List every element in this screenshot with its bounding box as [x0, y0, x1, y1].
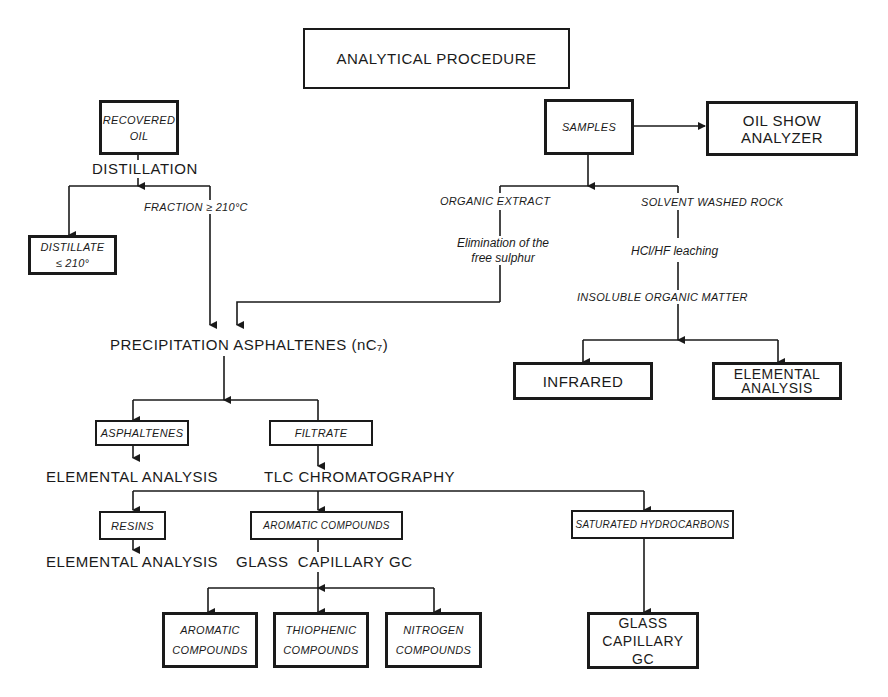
aromatic-compounds-label: AROMATIC COMPOUNDS [263, 520, 389, 531]
elemental-analysis-2-label: ELEMENTAL ANALYSIS [46, 553, 218, 570]
aromatic-compounds-final-label: AROMATIC COMPOUNDS [172, 620, 247, 660]
samples-box: SAMPLES [544, 99, 634, 155]
saturated-hydrocarbons-label: SATURATED HYDROCARBONS [575, 519, 729, 530]
infrared-label: INFRARED [543, 373, 624, 390]
oil-show-analyzer-box: OIL SHOW ANALYZER [706, 101, 858, 156]
filtrate-label: FILTRATE [295, 427, 348, 439]
distillate-box: DISTILLATE ≤ 210° [28, 235, 117, 275]
distillate-label: DISTILLATE ≤ 210° [41, 239, 105, 271]
nitrogen-compounds-box: NITROGEN COMPOUNDS [385, 612, 482, 668]
filtrate-box: FILTRATE [269, 420, 373, 446]
asphaltenes-label: ASPHALTENES [101, 427, 184, 439]
infrared-box: INFRARED [513, 362, 653, 400]
saturated-hydrocarbons-box: SATURATED HYDROCARBONS [571, 510, 734, 539]
distillation-label: DISTILLATION [92, 160, 198, 177]
recovered-oil-box: RECOVERED OIL [99, 100, 179, 155]
thiophenic-compounds-label: THIOPHENIC COMPOUNDS [283, 620, 358, 660]
nitrogen-compounds-label: NITROGEN COMPOUNDS [396, 620, 471, 660]
samples-label: SAMPLES [562, 121, 616, 133]
fraction-label: FRACTION ≥ 210°C [144, 201, 248, 213]
oil-show-analyzer-label: OIL SHOW ANALYZER [741, 112, 823, 146]
recovered-oil-label: RECOVERED OIL [103, 112, 175, 144]
elemental-analysis-box-label: ELEMENTAL ANALYSIS [734, 367, 821, 395]
glass-capillary-gc-box: GLASS CAPILLARY GC [587, 612, 699, 669]
solvent-washed-rock-label: SOLVENT WASHED ROCK [641, 196, 783, 208]
elemental-analysis-box: ELEMENTAL ANALYSIS [712, 362, 842, 400]
elemental-analysis-1-label: ELEMENTAL ANALYSIS [46, 468, 218, 485]
diagram-title: ANALYTICAL PROCEDURE [336, 50, 536, 67]
thiophenic-compounds-box: THIOPHENIC COMPOUNDS [273, 612, 369, 668]
aromatic-compounds-final-box: AROMATIC COMPOUNDS [162, 612, 258, 668]
precipitation-label: PRECIPITATION ASPHALTENES (nC₇) [110, 336, 388, 353]
resins-box: RESINS [99, 511, 166, 540]
insoluble-organic-matter-label: INSOLUBLE ORGANIC MATTER [577, 291, 748, 303]
elimination-label: Elimination of the free sulphur [440, 236, 566, 266]
title-box: ANALYTICAL PROCEDURE [303, 28, 570, 89]
tlc-chromatography-label: TLC CHROMATOGRAPHY [264, 468, 455, 485]
asphaltenes-box: ASPHALTENES [95, 420, 189, 446]
organic-extract-label: ORGANIC EXTRACT [440, 195, 550, 207]
leaching-label: HCl/HF leaching [631, 244, 718, 259]
glass-capillary-gc-box-label: GLASS CAPILLARY GC [590, 614, 696, 668]
aromatic-compounds-box: AROMATIC COMPOUNDS [250, 511, 403, 540]
glass-capillary-gc-label: GLASS CAPILLARY GC [236, 553, 413, 570]
resins-label: RESINS [111, 520, 154, 532]
